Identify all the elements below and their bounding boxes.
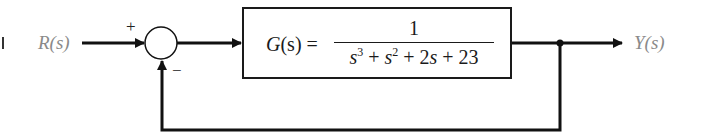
plant-block: G(s) = 1 s3 + s2 + 2s + 23	[242, 7, 512, 79]
equals-sign: =	[307, 33, 318, 55]
minus-sign: −	[172, 62, 182, 79]
numerator: 1	[334, 17, 494, 39]
term-s: s	[349, 46, 357, 68]
input-label: R(s)	[38, 33, 70, 52]
transfer-function-fraction: 1 s3 + s2 + 2s + 23	[334, 17, 494, 69]
constant: + 23	[437, 46, 478, 68]
summing-junction	[145, 27, 177, 59]
transfer-function-lhs: G(s) =	[266, 33, 318, 56]
fraction-bar	[334, 42, 494, 43]
operator: +	[363, 46, 384, 68]
plus-sign: +	[126, 18, 136, 35]
function-name: G	[266, 33, 280, 55]
function-arg: (s)	[280, 33, 301, 55]
denominator: s3 + s2 + 2s + 23	[334, 45, 494, 69]
output-label: Y(s)	[634, 33, 665, 52]
operator: + 2	[398, 46, 429, 68]
